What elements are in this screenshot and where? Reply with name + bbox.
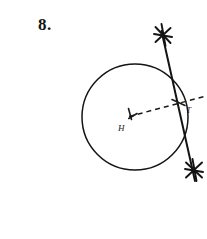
label-tangent-t: T (186, 105, 192, 115)
center-tick-mark (129, 109, 138, 120)
upper-arc-mark (154, 24, 172, 46)
figure-page: 8. H (0, 0, 207, 239)
geometry-figure: H T (0, 0, 207, 239)
label-center-h: H (117, 123, 125, 133)
dashed-radius-segment (129, 95, 207, 117)
